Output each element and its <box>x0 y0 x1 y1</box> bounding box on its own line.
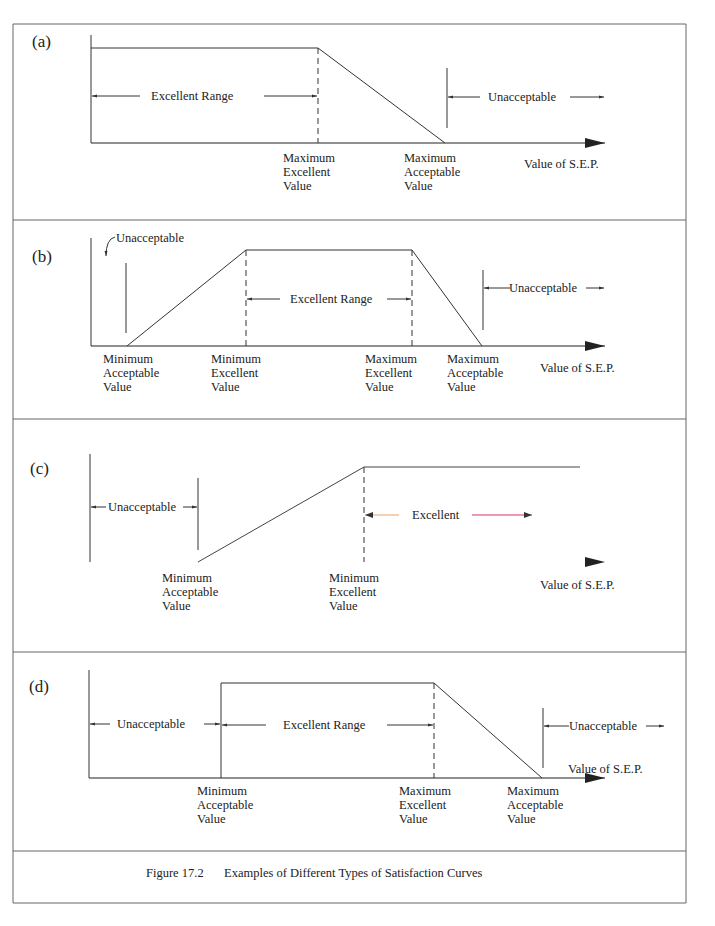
arrowhead-left <box>365 512 373 518</box>
unacceptable-label: Unacceptable <box>117 717 185 731</box>
axis-title: Value of S.E.P. <box>540 361 615 375</box>
svg-text:Value: Value <box>197 812 226 826</box>
svg-text:Value: Value <box>162 599 191 613</box>
svg-text:Acceptable: Acceptable <box>197 798 254 812</box>
svg-text:Minimum: Minimum <box>103 352 153 366</box>
svg-text:Minimum: Minimum <box>197 784 247 798</box>
tick-label-max-excellent: Maximum Excellent Value <box>365 352 417 394</box>
panel-label: (d) <box>29 677 49 696</box>
axis-title: Value of S.E.P. <box>524 157 599 171</box>
svg-text:Maximum: Maximum <box>447 352 499 366</box>
svg-text:Minimum: Minimum <box>211 352 261 366</box>
svg-text:Excellent: Excellent <box>283 165 331 179</box>
svg-text:Maximum: Maximum <box>365 352 417 366</box>
panel-label: (b) <box>32 247 52 266</box>
tick-label-min-acceptable: Minimum Acceptable Value <box>162 571 219 613</box>
excellent-range-label: Excellent Range <box>290 292 373 306</box>
unacceptable-label: Unacceptable <box>488 90 556 104</box>
satisfaction-curve <box>221 683 542 778</box>
x-axis-arrowhead <box>585 557 605 567</box>
svg-text:Minimum: Minimum <box>162 571 212 585</box>
svg-text:Value: Value <box>507 812 536 826</box>
panel-label: (a) <box>32 32 51 51</box>
svg-text:Value: Value <box>404 179 433 193</box>
svg-text:Acceptable: Acceptable <box>103 366 160 380</box>
svg-text:Excellent: Excellent <box>399 798 447 812</box>
excellent-label: Excellent <box>412 508 460 522</box>
tick-label-min-excellent: Minimum Excellent Value <box>329 571 379 613</box>
svg-text:Value: Value <box>365 380 394 394</box>
panel-a: (a) Excellent Range Unacceptable Maximum… <box>32 32 605 193</box>
caption-number: Figure 17.2 <box>146 866 204 880</box>
svg-text:Minimum: Minimum <box>329 571 379 585</box>
arrowhead-right <box>524 512 532 518</box>
tick-label-min-excellent: Minimum Excellent Value <box>211 352 261 394</box>
axis-title: Value of S.E.P. <box>568 762 643 776</box>
svg-text:Acceptable: Acceptable <box>162 585 219 599</box>
svg-text:Acceptable: Acceptable <box>447 366 504 380</box>
figure-caption: Figure 17.2 Examples of Different Types … <box>146 866 482 880</box>
svg-text:Acceptable: Acceptable <box>507 798 564 812</box>
unacceptable-label: Unacceptable <box>509 281 577 295</box>
axis-title: Value of S.E.P. <box>540 578 615 592</box>
tick-label-max-acceptable: Maximum Acceptable Value <box>404 151 461 193</box>
tick-label-min-acceptable: Minimum Acceptable Value <box>103 352 160 394</box>
svg-text:Excellent: Excellent <box>211 366 259 380</box>
svg-text:Value: Value <box>329 599 358 613</box>
svg-text:Acceptable: Acceptable <box>404 165 461 179</box>
panel-d: (d) Unacceptable Excellent Range Unaccep… <box>29 670 664 826</box>
satisfaction-curves-figure: (a) Excellent Range Unacceptable Maximum… <box>0 0 715 926</box>
svg-text:Maximum: Maximum <box>283 151 335 165</box>
tick-label-max-acceptable: Maximum Acceptable Value <box>507 784 564 826</box>
svg-text:Value: Value <box>211 380 240 394</box>
svg-text:Maximum: Maximum <box>399 784 451 798</box>
excellent-range-label: Excellent Range <box>283 718 366 732</box>
tick-label-min-acceptable: Minimum Acceptable Value <box>197 784 254 826</box>
unacceptable-label: Unacceptable <box>108 500 176 514</box>
panel-label: (c) <box>30 459 49 478</box>
svg-text:Maximum: Maximum <box>507 784 559 798</box>
svg-text:Value: Value <box>399 812 428 826</box>
tick-label-max-acceptable: Maximum Acceptable Value <box>447 352 504 394</box>
svg-text:Value: Value <box>447 380 476 394</box>
tick-label-max-excellent: Maximum Excellent Value <box>399 784 451 826</box>
svg-text:Excellent: Excellent <box>329 585 377 599</box>
panel-c: (c) Unacceptable Excellent Minimum Accep… <box>30 454 615 613</box>
tick-label-max-excellent: Maximum Excellent Value <box>283 151 335 193</box>
unacceptable-label: Unacceptable <box>569 719 637 733</box>
unacceptable-pointer-arrow <box>106 237 115 256</box>
svg-text:Value: Value <box>103 380 132 394</box>
svg-text:Maximum: Maximum <box>404 151 456 165</box>
unacceptable-label: Unacceptable <box>116 231 184 245</box>
caption-text: Examples of Different Types of Satisfact… <box>224 866 482 880</box>
svg-text:Value: Value <box>283 179 312 193</box>
panel-b: (b) Unacceptable Excellent Range Unaccep… <box>32 231 615 394</box>
excellent-range-label: Excellent Range <box>151 89 234 103</box>
svg-text:Excellent: Excellent <box>365 366 413 380</box>
